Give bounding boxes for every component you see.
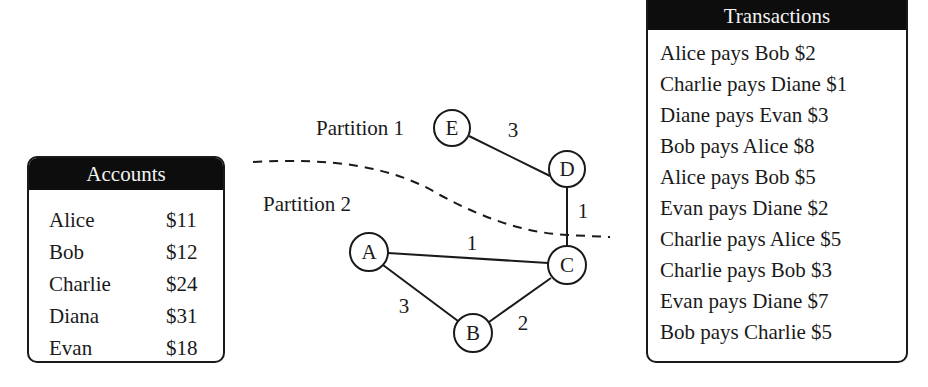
partition-2-label: Partition 2 xyxy=(263,192,351,216)
partition-graph: E D C A B 3 1 1 3 2 Partition 1 Partitio… xyxy=(0,0,928,387)
node-a: A xyxy=(350,233,388,271)
edge-e-d xyxy=(469,136,550,176)
node-c: C xyxy=(548,246,586,284)
weight-e-d: 3 xyxy=(508,118,519,142)
svg-text:E: E xyxy=(446,116,459,140)
partition-1-label: Partition 1 xyxy=(316,116,404,140)
node-e: E xyxy=(434,110,470,146)
weight-d-c: 1 xyxy=(578,199,589,223)
edge-a-b xyxy=(383,265,458,321)
svg-text:B: B xyxy=(466,321,480,345)
graph-edges xyxy=(383,136,567,322)
svg-text:A: A xyxy=(361,240,377,264)
node-d: D xyxy=(549,151,585,187)
weight-a-b: 3 xyxy=(399,294,410,318)
svg-text:D: D xyxy=(559,157,574,181)
weight-a-c: 1 xyxy=(467,231,478,255)
weight-b-c: 2 xyxy=(518,311,529,335)
node-b: B xyxy=(454,314,492,352)
svg-text:C: C xyxy=(560,253,574,277)
